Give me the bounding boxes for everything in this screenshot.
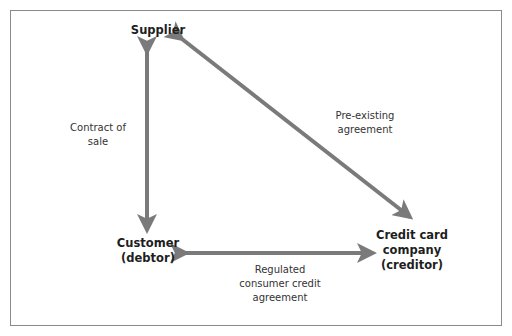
edge-label-line: Contract of xyxy=(58,121,138,135)
edge-label-contract-of-sale: Contract of sale xyxy=(58,121,138,149)
creditor-role: (creditor) xyxy=(362,258,462,273)
creditor-label-1: Credit card xyxy=(362,228,462,243)
edge-label-line: consumer credit xyxy=(230,277,330,291)
customer-label: Customer xyxy=(108,236,188,251)
node-creditor: Credit card company (creditor) xyxy=(362,228,462,273)
edge-label-line: Regulated xyxy=(230,263,330,277)
node-customer: Customer (debtor) xyxy=(108,236,188,266)
edge-label-line: sale xyxy=(58,135,138,149)
edge-label-pre-existing-agreement: Pre-existing agreement xyxy=(320,109,410,137)
creditor-label-2: company xyxy=(362,243,462,258)
customer-role: (debtor) xyxy=(108,251,188,266)
supplier-label: Supplier xyxy=(118,23,198,38)
edge-label-line: Pre-existing xyxy=(320,109,410,123)
edge-label-line: agreement xyxy=(230,291,330,305)
edge-label-line: agreement xyxy=(320,123,410,137)
node-supplier: Supplier xyxy=(118,23,198,38)
edge-label-regulated-agreement: Regulated consumer credit agreement xyxy=(230,263,330,305)
